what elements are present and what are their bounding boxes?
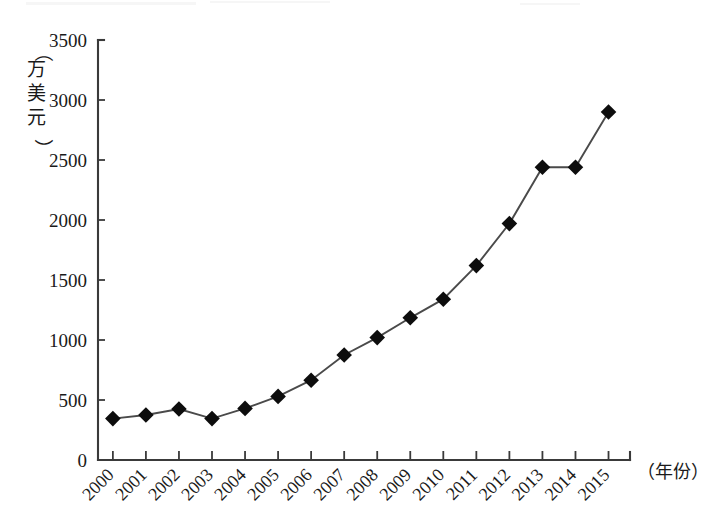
data-point-marker <box>568 159 584 175</box>
y-tick-label: 2000 <box>49 210 87 231</box>
data-point-marker <box>601 104 617 120</box>
chart-canvas: （ 万 美 元 ） 0500100015002000250030003500 2… <box>0 0 711 527</box>
data-point-marker <box>105 411 121 427</box>
data-point-marker <box>204 411 220 427</box>
x-tick-label: 2011 <box>442 465 481 504</box>
data-point-marker <box>237 401 253 417</box>
x-tick-label: 2005 <box>243 465 283 505</box>
x-axis-unit-label: （年份） <box>637 461 709 482</box>
data-point-marker <box>270 389 286 405</box>
x-tick-label: 2008 <box>342 465 382 505</box>
data-point-marker <box>369 330 385 346</box>
data-point-marker <box>535 159 551 175</box>
y-tick-label: 2500 <box>49 150 87 171</box>
y-tick-label: 3000 <box>49 90 87 111</box>
x-axis-ticks <box>113 451 609 460</box>
x-tick-label: 2001 <box>111 465 151 505</box>
y-unit-char-3: 元 <box>27 106 46 128</box>
x-axis-tick-labels: 2000200120022003200420052006200720082009… <box>78 465 613 505</box>
data-point-marker <box>171 401 187 417</box>
x-tick-label: 2002 <box>144 465 184 505</box>
y-tick-label: 3500 <box>49 30 87 51</box>
y-axis-ticks: 0500100015002000250030003500 <box>49 30 105 471</box>
x-tick-label: 2015 <box>574 465 614 505</box>
x-tick-label: 2004 <box>210 465 250 505</box>
x-tick-label: 2010 <box>409 465 449 505</box>
y-tick-label: 0 <box>78 450 88 471</box>
x-tick-label: 2006 <box>276 465 316 505</box>
axis-lines <box>98 40 630 460</box>
line-chart: （ 万 美 元 ） 0500100015002000250030003500 2… <box>0 0 711 527</box>
data-point-marker <box>336 347 352 363</box>
x-tick-label: 2007 <box>309 465 349 505</box>
x-tick-label: 2009 <box>375 465 415 505</box>
data-point-marker <box>402 310 418 326</box>
x-tick-label: 2012 <box>475 465 515 505</box>
y-tick-label: 500 <box>59 390 88 411</box>
x-tick-label: 2003 <box>177 465 217 505</box>
data-point-marker <box>303 372 319 388</box>
y-tick-label: 1500 <box>49 270 87 291</box>
x-tick-label: 2014 <box>541 465 581 505</box>
y-unit-char-2: 美 <box>27 82 46 104</box>
series-line <box>113 112 609 419</box>
x-tick-label: 2013 <box>508 465 548 505</box>
y-tick-label: 1000 <box>49 330 87 351</box>
y-unit-char-1: 万 <box>27 58 46 80</box>
series-markers <box>105 104 616 426</box>
data-point-marker <box>138 407 154 423</box>
